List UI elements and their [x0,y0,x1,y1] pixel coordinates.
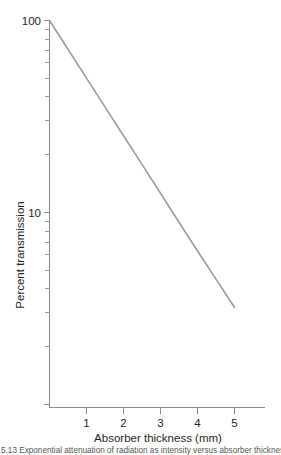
x-axis-title: Absorber thickness (mm) [94,432,222,444]
x-tick-label-5: 5 [231,417,237,429]
x-tick-label-2: 2 [120,417,126,429]
x-tick-label-3: 3 [157,417,163,429]
x-tick-label-4: 4 [194,417,201,429]
y-axis-title: Percent transmission [14,201,26,308]
x-tick-label-1: 1 [83,417,89,429]
y-tick-label-100: 100 [22,15,41,27]
y-tick-label-10: 10 [28,207,41,219]
transmission-curve [50,21,235,308]
figure-caption: 5.13 Exponential attenuation of radiatio… [0,446,281,455]
